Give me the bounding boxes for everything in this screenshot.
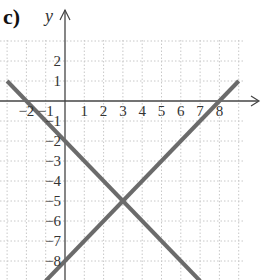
x-tick-label: −2 <box>18 103 34 119</box>
part-label: c) <box>3 4 20 29</box>
x-tick-label: 7 <box>196 103 204 119</box>
x-tick-label: 5 <box>158 103 166 119</box>
x-tick-label: 6 <box>177 103 185 119</box>
y-tick-label: −8 <box>45 253 61 269</box>
y-tick-label: −6 <box>45 213 61 229</box>
y-tick-label: 1 <box>54 73 62 89</box>
y-tick-label: −5 <box>45 193 61 209</box>
y-tick-label: −4 <box>45 173 61 189</box>
x-tick-label: 4 <box>138 103 146 119</box>
y-axis-label: y <box>43 6 53 26</box>
grid <box>0 40 245 280</box>
y-tick-label: −1 <box>45 113 61 129</box>
y-tick-label: −3 <box>45 153 61 169</box>
y-tick-label: −7 <box>45 233 61 249</box>
axes: y <box>0 6 259 280</box>
y-tick-label: −2 <box>45 133 61 149</box>
x-tick-label: 3 <box>119 103 127 119</box>
tick-labels: −2−11234567821−1−2−3−4−5−6−7−8 <box>18 53 223 269</box>
x-tick-label: 1 <box>81 103 89 119</box>
x-tick-label: 2 <box>100 103 108 119</box>
x-tick-label: 8 <box>216 103 224 119</box>
y-tick-label: 2 <box>54 53 62 69</box>
coordinate-plane: y −2−11234567821−1−2−3−4−5−6−7−8 c) <box>0 0 261 280</box>
